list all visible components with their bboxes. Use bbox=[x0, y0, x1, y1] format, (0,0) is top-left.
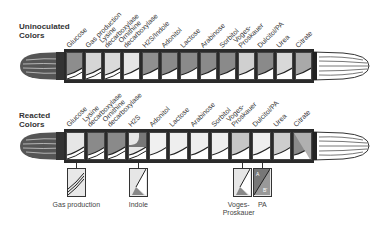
uninoculated-cell bbox=[180, 52, 197, 80]
uninoculated-cell bbox=[219, 52, 236, 80]
reacted-cell bbox=[252, 132, 271, 160]
reacted-cell bbox=[190, 132, 209, 160]
detail-indole bbox=[129, 168, 148, 197]
reacted-label: Urea bbox=[272, 112, 288, 128]
uninoculated-label: Urea bbox=[275, 33, 291, 49]
detail-label: PA bbox=[254, 201, 270, 209]
reacted-cell bbox=[273, 132, 292, 160]
reacted-cell bbox=[231, 132, 250, 160]
reacted-label: Lactose bbox=[168, 106, 190, 128]
uninoculated-cell bbox=[200, 52, 217, 80]
uninoculated-cell bbox=[238, 52, 255, 80]
detail-label: Voges- Proskauer bbox=[222, 201, 256, 217]
uninoculated-cell bbox=[257, 52, 274, 80]
reacted-tube: BA bbox=[64, 129, 314, 163]
uninoculated-cell bbox=[85, 52, 102, 80]
uninoculated-strip bbox=[0, 49, 379, 89]
reacted-cell bbox=[211, 132, 230, 160]
reacted-label: H2S bbox=[127, 113, 142, 128]
detail-pa: AB' bbox=[253, 168, 272, 197]
left-cap-icon bbox=[18, 49, 66, 83]
reacted-cell bbox=[107, 132, 126, 160]
uninoculated-label: Citrate bbox=[294, 29, 314, 49]
uninoculated-cell bbox=[123, 52, 140, 80]
right-cap-icon bbox=[313, 129, 373, 163]
reacted-label: Citrate bbox=[292, 108, 312, 128]
reacted-cell: BA bbox=[293, 132, 312, 160]
uninoculated-cell bbox=[295, 52, 312, 80]
svg-text:B': B' bbox=[263, 187, 267, 193]
detail-label: Gas production bbox=[46, 201, 106, 209]
uninoculated-label: Lactose bbox=[180, 27, 202, 49]
reacted-cell bbox=[169, 132, 188, 160]
detail-gas-production bbox=[67, 168, 86, 197]
uninoculated-cell bbox=[142, 52, 159, 80]
uninoculated-cell bbox=[276, 52, 293, 80]
uninoculated-cell bbox=[104, 52, 121, 80]
left-cap-icon bbox=[18, 129, 66, 163]
reacted-strip: BA bbox=[0, 129, 379, 169]
reacted-cell bbox=[87, 132, 106, 160]
reacted-cell bbox=[128, 132, 147, 160]
uninoculated-tube bbox=[64, 49, 314, 83]
uninoculated-title: Uninoculated Colors bbox=[19, 22, 70, 40]
reacted-cell bbox=[66, 132, 85, 160]
uninoculated-cell bbox=[161, 52, 178, 80]
detail-label: Indole bbox=[108, 201, 168, 209]
reacted-title: Reacted Colors bbox=[19, 111, 50, 129]
reacted-label: Adonitol bbox=[148, 105, 171, 128]
reacted-cell bbox=[149, 132, 168, 160]
right-cap-icon bbox=[313, 49, 373, 83]
detail-voges-proskauer bbox=[233, 168, 252, 197]
uninoculated-cell bbox=[66, 52, 83, 80]
